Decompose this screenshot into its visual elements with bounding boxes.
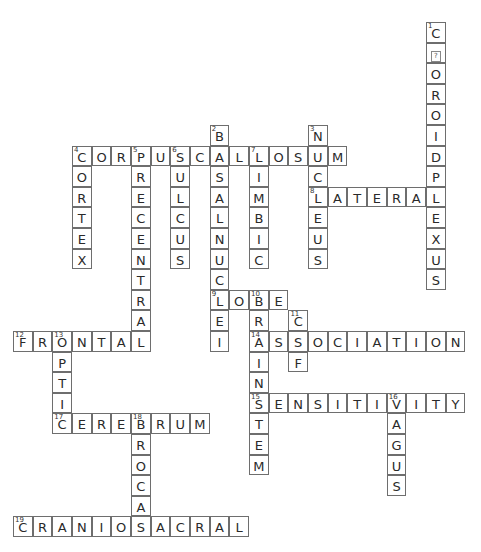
- crossword-cell[interactable]: R: [33, 516, 53, 537]
- crossword-cell[interactable]: S: [288, 331, 308, 352]
- crossword-cell[interactable]: T: [426, 393, 446, 414]
- crossword-cell[interactable]: R: [190, 516, 210, 537]
- crossword-cell[interactable]: R: [111, 146, 131, 167]
- crossword-cell[interactable]: E: [269, 290, 289, 311]
- crossword-cell[interactable]: E: [367, 187, 387, 208]
- crossword-cell[interactable]: R: [151, 413, 171, 434]
- crossword-cell[interactable]: T: [249, 413, 269, 434]
- crossword-cell[interactable]: M: [249, 187, 269, 208]
- crossword-cell[interactable]: I: [367, 393, 387, 414]
- crossword-cell[interactable]: C: [131, 475, 151, 496]
- crossword-cell[interactable]: N: [249, 372, 269, 393]
- crossword-cell[interactable]: N: [72, 331, 92, 352]
- crossword-cell[interactable]: 17C: [52, 413, 72, 434]
- crossword-cell[interactable]: M: [190, 413, 210, 434]
- crossword-cell[interactable]: S: [288, 146, 308, 167]
- crossword-cell[interactable]: 8L: [308, 187, 328, 208]
- crossword-cell[interactable]: 12F: [13, 331, 33, 352]
- crossword-cell[interactable]: U: [426, 249, 446, 270]
- crossword-cell[interactable]: B: [249, 207, 269, 228]
- crossword-cell[interactable]: I: [52, 393, 72, 414]
- crossword-cell[interactable]: I: [249, 166, 269, 187]
- crossword-cell[interactable]: O: [426, 331, 446, 352]
- crossword-cell[interactable]: I: [249, 228, 269, 249]
- crossword-cell[interactable]: E: [72, 228, 92, 249]
- crossword-cell[interactable]: C: [249, 249, 269, 270]
- crossword-cell[interactable]: 14A: [249, 331, 269, 352]
- crossword-cell[interactable]: M: [328, 146, 348, 167]
- crossword-cell[interactable]: T: [347, 187, 367, 208]
- crossword-cell[interactable]: E: [308, 207, 328, 228]
- crossword-cell[interactable]: L: [229, 516, 249, 537]
- crossword-cell[interactable]: S: [387, 475, 407, 496]
- crossword-cell[interactable]: O: [426, 104, 446, 125]
- crossword-cell[interactable]: N: [131, 249, 151, 270]
- crossword-cell[interactable]: R: [387, 187, 407, 208]
- crossword-cell[interactable]: R: [426, 84, 446, 105]
- crossword-cell[interactable]: ?: [426, 43, 446, 64]
- crossword-cell[interactable]: A: [52, 516, 72, 537]
- crossword-cell[interactable]: A: [367, 331, 387, 352]
- crossword-cell[interactable]: T: [131, 269, 151, 290]
- crossword-cell[interactable]: S: [308, 393, 328, 414]
- crossword-cell[interactable]: R: [92, 413, 112, 434]
- crossword-cell[interactable]: O: [269, 146, 289, 167]
- crossword-cell[interactable]: F: [288, 352, 308, 373]
- crossword-cell[interactable]: S: [426, 269, 446, 290]
- crossword-cell[interactable]: 6S: [170, 146, 190, 167]
- crossword-cell[interactable]: U: [210, 249, 230, 270]
- crossword-cell[interactable]: A: [111, 331, 131, 352]
- crossword-cell[interactable]: E: [426, 207, 446, 228]
- crossword-cell[interactable]: U: [151, 146, 171, 167]
- crossword-cell[interactable]: N: [72, 516, 92, 537]
- crossword-cell[interactable]: C: [170, 516, 190, 537]
- crossword-cell[interactable]: C: [328, 331, 348, 352]
- crossword-cell[interactable]: R: [33, 331, 53, 352]
- crossword-cell[interactable]: E: [269, 393, 289, 414]
- crossword-cell[interactable]: A: [210, 146, 230, 167]
- crossword-cell[interactable]: 3N: [308, 125, 328, 146]
- crossword-cell[interactable]: N: [210, 228, 230, 249]
- crossword-cell[interactable]: U: [387, 455, 407, 476]
- crossword-cell[interactable]: E: [72, 413, 92, 434]
- crossword-cell[interactable]: S: [131, 516, 151, 537]
- crossword-cell[interactable]: I: [328, 393, 348, 414]
- crossword-cell[interactable]: D: [426, 146, 446, 167]
- crossword-cell[interactable]: 18B: [131, 413, 151, 434]
- crossword-cell[interactable]: U: [170, 228, 190, 249]
- crossword-cell[interactable]: S: [210, 166, 230, 187]
- crossword-cell[interactable]: O: [229, 290, 249, 311]
- crossword-cell[interactable]: I: [426, 125, 446, 146]
- crossword-cell[interactable]: T: [347, 393, 367, 414]
- crossword-cell[interactable]: S: [308, 249, 328, 270]
- crossword-cell[interactable]: U: [308, 146, 328, 167]
- crossword-cell[interactable]: C: [190, 146, 210, 167]
- crossword-cell[interactable]: U: [170, 166, 190, 187]
- crossword-cell[interactable]: 5P: [131, 146, 151, 167]
- crossword-cell[interactable]: 9L: [210, 290, 230, 311]
- crossword-cell[interactable]: X: [426, 228, 446, 249]
- crossword-cell[interactable]: 13O: [52, 331, 72, 352]
- crossword-cell[interactable]: A: [387, 413, 407, 434]
- crossword-cell[interactable]: 16V: [387, 393, 407, 414]
- crossword-cell[interactable]: 4C: [72, 146, 92, 167]
- crossword-cell[interactable]: A: [131, 496, 151, 517]
- crossword-cell[interactable]: S: [269, 331, 289, 352]
- crossword-cell[interactable]: Y: [446, 393, 466, 414]
- crossword-cell[interactable]: N: [446, 331, 466, 352]
- crossword-cell[interactable]: R: [72, 187, 92, 208]
- crossword-cell[interactable]: 19C: [13, 516, 33, 537]
- crossword-cell[interactable]: 11C: [288, 310, 308, 331]
- crossword-cell[interactable]: G: [387, 434, 407, 455]
- crossword-cell[interactable]: C: [308, 166, 328, 187]
- crossword-cell[interactable]: I: [406, 393, 426, 414]
- crossword-cell[interactable]: P: [52, 352, 72, 373]
- crossword-cell[interactable]: 10B: [249, 290, 269, 311]
- crossword-cell[interactable]: L: [131, 331, 151, 352]
- crossword-cell[interactable]: R: [131, 166, 151, 187]
- crossword-cell[interactable]: O: [308, 331, 328, 352]
- crossword-cell[interactable]: T: [387, 331, 407, 352]
- crossword-cell[interactable]: L: [210, 207, 230, 228]
- crossword-cell[interactable]: A: [151, 516, 171, 537]
- crossword-cell[interactable]: I: [249, 352, 269, 373]
